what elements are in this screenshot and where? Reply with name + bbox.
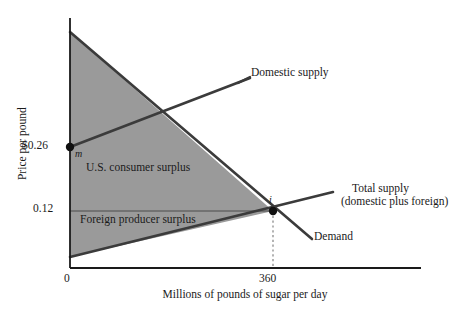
consumer-surplus-label: U.S. consumer surplus [86, 161, 190, 174]
point-i-marker [269, 207, 277, 215]
supply-demand-chart: Price per pound Millions of pounds of su… [0, 0, 458, 313]
point-m-label: m [75, 148, 82, 160]
point-i-label: i [269, 194, 272, 206]
y-tick-label-012: 0.12 [33, 202, 53, 215]
y-tick-label-026: $0.26 [22, 139, 48, 152]
domestic-supply-label: Domestic supply [251, 66, 329, 79]
total-supply-label-line1: Total supply [352, 182, 409, 194]
point-m-marker [66, 143, 74, 151]
x-tick-label-0: 0 [64, 272, 70, 285]
demand-label: Demand [314, 230, 353, 243]
x-tick-label-360: 360 [259, 272, 276, 285]
total-supply-label: Total supply(domestic plus foreign) [352, 182, 448, 208]
producer-surplus-label: Foreign producer surplus [80, 213, 196, 226]
total-supply-label-line2: (domestic plus foreign) [341, 195, 448, 208]
x-axis-title: Millions of pounds of sugar per day [70, 288, 420, 301]
chart-plot-area [0, 0, 458, 313]
